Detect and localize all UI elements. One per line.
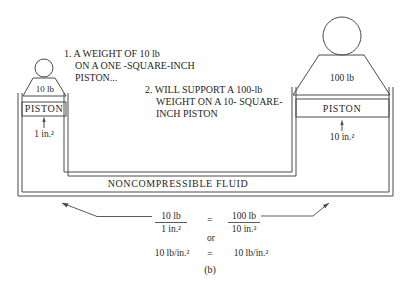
eq-frac1-denominator: 1 in.²: [161, 224, 181, 234]
small-weight-label: 10 lb: [36, 84, 54, 94]
small-weight-ball: [35, 59, 53, 77]
small-piston-label: PISTON: [25, 103, 63, 114]
large-weight-label: 100 lb: [330, 73, 354, 83]
fluid-label: NONCOMPRESSIBLE FLUID: [108, 178, 249, 189]
eq-frac2-denominator: 10 in.²: [232, 224, 257, 234]
small-area-label: 1 in.²: [34, 129, 54, 139]
annotation-2: 2. WILL SUPPORT A 100-lb WEIGHT ON A 10-…: [145, 84, 282, 121]
hydraulic-diagram-svg: [0, 0, 412, 285]
annotation-2-line-2: WEIGHT ON A 10- SQUARE-: [145, 96, 282, 108]
hydraulic-press-figure: 1. A WEIGHT OF 10 lb ON A ONE -SQUARE-IN…: [0, 0, 412, 285]
annotation-1-line-3: PISTON...: [64, 72, 195, 84]
annotation-1: 1. A WEIGHT OF 10 lb ON A ONE -SQUARE-IN…: [64, 48, 195, 85]
eq-right-pressure: 10 lb/in.²: [234, 248, 269, 258]
large-area-label: 10 in.²: [330, 132, 355, 142]
eq-frac1-numerator: 10 lb: [161, 211, 180, 221]
annotation-1-line-2: ON A ONE -SQUARE-INCH: [64, 60, 195, 72]
eq-frac2-numerator: 100 lb: [232, 211, 256, 221]
annotation-1-line-1: 1. A WEIGHT OF 10 lb: [64, 48, 195, 60]
eq-equals-2: =: [207, 249, 212, 259]
eq-or-label: or: [207, 233, 215, 243]
large-piston-label: PISTON: [323, 103, 361, 114]
eq-equals-1: =: [207, 215, 212, 225]
large-weight-ball: [323, 17, 361, 55]
annotation-2-line-1: 2. WILL SUPPORT A 100-lb: [145, 84, 282, 96]
annotation-2-line-3: INCH PISTON: [145, 108, 282, 120]
small-area-arrow: [42, 117, 45, 129]
large-area-arrow: [340, 120, 343, 132]
right-leader-line: [261, 203, 329, 216]
eq-left-pressure: 10 lb/in.²: [155, 248, 190, 258]
left-leader-line: [62, 203, 152, 217]
figure-label: (b): [204, 264, 216, 275]
